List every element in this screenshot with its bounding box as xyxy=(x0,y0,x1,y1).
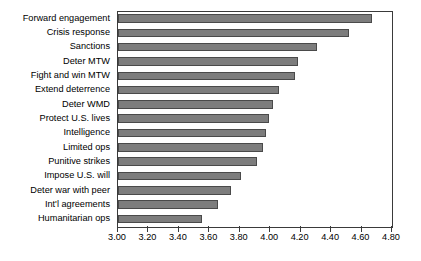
bar-chart: Forward engagementCrisis responseSanctio… xyxy=(0,0,421,261)
bar xyxy=(118,100,273,108)
x-axis-tick-label: 3.60 xyxy=(199,232,217,242)
x-axis-tick-label: 4.40 xyxy=(321,232,339,242)
x-axis-tick-label: 3.40 xyxy=(169,232,187,242)
category-label-row: Int'l agreements xyxy=(0,197,114,211)
bar xyxy=(118,14,372,22)
category-label: Deter MTW xyxy=(63,57,110,66)
category-label: Impose U.S. will xyxy=(44,171,110,180)
category-label-row: Fight and win MTW xyxy=(0,68,114,82)
x-axis-tick-label: 4.80 xyxy=(382,232,400,242)
x-axis-tick-label: 4.60 xyxy=(352,232,370,242)
bar-row xyxy=(118,69,392,83)
category-label-row: Intelligence xyxy=(0,126,114,140)
x-axis-tick-label: 4.00 xyxy=(260,232,278,242)
bar-series xyxy=(118,12,392,227)
category-label: Punitive strikes xyxy=(48,157,110,166)
bar-row xyxy=(118,55,392,69)
category-label-row: Deter MTW xyxy=(0,54,114,68)
bar xyxy=(118,114,269,122)
bar-row xyxy=(118,198,392,212)
bar-row xyxy=(118,141,392,155)
category-axis-labels: Forward engagementCrisis responseSanctio… xyxy=(0,11,114,226)
x-axis-tick-labels: 3.003.203.403.603.804.004.204.404.604.80 xyxy=(0,232,421,248)
category-label-row: Deter war with peer xyxy=(0,183,114,197)
bar-row xyxy=(118,155,392,169)
category-label: Sanctions xyxy=(70,42,110,51)
bar xyxy=(118,186,231,194)
bar xyxy=(118,86,279,94)
x-axis-tick-label: 3.00 xyxy=(108,232,126,242)
bar xyxy=(118,143,263,151)
category-label-row: Protect U.S. lives xyxy=(0,111,114,125)
category-label: Humanitarian ops xyxy=(38,214,110,223)
bar-row xyxy=(118,41,392,55)
bar xyxy=(118,157,257,165)
bar xyxy=(118,43,317,51)
category-label: Forward engagement xyxy=(23,14,110,23)
category-label: Int'l agreements xyxy=(45,200,110,209)
category-label: Intelligence xyxy=(64,128,110,137)
bar xyxy=(118,200,218,208)
bar-row xyxy=(118,26,392,40)
bar xyxy=(118,129,266,137)
category-label-row: Punitive strikes xyxy=(0,154,114,168)
bar xyxy=(118,215,202,223)
bar-row xyxy=(118,127,392,141)
bar-row xyxy=(118,184,392,198)
bar xyxy=(118,57,298,65)
category-label: Deter war with peer xyxy=(30,186,110,195)
category-label-row: Forward engagement xyxy=(0,11,114,25)
category-label-row: Extend deterrence xyxy=(0,83,114,97)
bar xyxy=(118,29,349,37)
bar-row xyxy=(118,84,392,98)
bar xyxy=(118,72,295,80)
x-axis-tick-label: 3.20 xyxy=(138,232,156,242)
category-label: Limited ops xyxy=(63,143,110,152)
category-label-row: Crisis response xyxy=(0,25,114,39)
category-label-row: Sanctions xyxy=(0,40,114,54)
bar xyxy=(118,172,241,180)
category-label: Protect U.S. lives xyxy=(40,114,110,123)
x-axis-tick-label: 4.20 xyxy=(291,232,309,242)
category-label: Crisis response xyxy=(47,28,110,37)
category-label: Extend deterrence xyxy=(35,85,110,94)
category-label-row: Impose U.S. will xyxy=(0,169,114,183)
bar-row xyxy=(118,12,392,26)
category-label-row: Humanitarian ops xyxy=(0,212,114,226)
category-label: Fight and win MTW xyxy=(31,71,110,80)
bar-row xyxy=(118,112,392,126)
bar-row xyxy=(118,98,392,112)
x-axis-tick-label: 3.80 xyxy=(230,232,248,242)
bar-row xyxy=(118,170,392,184)
category-label: Deter WMD xyxy=(62,100,110,109)
plot-area xyxy=(117,11,393,228)
category-label-row: Limited ops xyxy=(0,140,114,154)
bar-row xyxy=(118,213,392,227)
category-label-row: Deter WMD xyxy=(0,97,114,111)
